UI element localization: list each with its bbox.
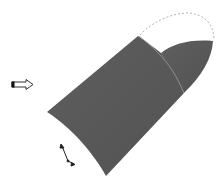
axis-triad-icon (60, 144, 75, 166)
direction-arrow-icon (12, 80, 34, 90)
guide-arc (140, 13, 214, 40)
diagram-canvas: Shaded swept surface with a seam curve, … (0, 0, 222, 184)
diagram-svg (0, 0, 222, 184)
